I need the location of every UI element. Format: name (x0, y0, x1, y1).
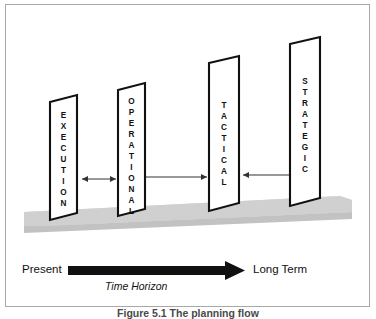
panel-operational[interactable]: O P E R A T I O N A L (118, 83, 145, 216)
panel-execution-letter-4: U (60, 155, 66, 164)
panel-strategic-letter-0: S (302, 77, 308, 86)
panel-tactical-letter-5: C (221, 156, 227, 165)
planning-flow-diagram: E X E C U T I O N O P E R A T I O N A L (0, 0, 376, 319)
figure-container: E X E C U T I O N O P E R A T I O N A L (0, 0, 376, 319)
panel-tactical-letter-4: I (223, 145, 225, 154)
panel-strategic-letter-5: E (302, 132, 308, 141)
panel-tactical-letter-2: C (221, 123, 227, 132)
panel-operational-letter-7: O (128, 174, 135, 183)
axis-start-label: Present (22, 263, 62, 275)
time-horizon-arrow-icon (68, 261, 245, 280)
panel-strategic-letter-2: R (302, 99, 308, 108)
panel-operational-letter-5: T (129, 152, 134, 161)
connector-arrows (82, 175, 297, 179)
panel-strategic-letter-4: T (302, 121, 307, 130)
panel-execution[interactable]: E X E C U T I O N (50, 95, 77, 220)
panel-tactical[interactable]: T A C T I C A L (209, 56, 239, 211)
panel-strategic-letter-3: A (302, 110, 308, 119)
panel-operational-letter-1: P (129, 108, 135, 117)
panel-execution-letter-1: X (61, 122, 67, 131)
panel-execution-letter-6: I (62, 177, 64, 186)
panel-execution-letter-8: N (60, 199, 66, 208)
panel-tactical-letter-6: A (221, 167, 227, 176)
panel-strategic-letter-6: G (302, 143, 308, 152)
panel-operational-letter-8: N (128, 185, 134, 194)
panel-strategic-letter-1: T (302, 88, 307, 97)
panel-execution-letter-3: C (60, 144, 66, 153)
axis-title-time-horizon: Time Horizon (105, 280, 167, 292)
panel-tactical-letter-0: T (221, 101, 226, 110)
panel-operational-letter-4: A (128, 141, 134, 150)
time-horizon-axis: Present Long Term Time Horizon (22, 261, 307, 292)
panel-operational-letter-9: A (128, 196, 134, 205)
panel-operational-letter-0: O (128, 97, 135, 106)
panel-operational-letter-2: E (129, 119, 135, 128)
panel-execution-letter-7: O (60, 188, 67, 197)
panel-strategic-letter-8: C (302, 165, 308, 174)
axis-end-label: Long Term (253, 263, 307, 275)
panel-operational-letter-6: I (130, 163, 132, 172)
panel-strategic[interactable]: S T R A T E G I C (290, 37, 320, 206)
panel-execution-letter-5: T (61, 166, 66, 175)
panel-execution-letter-2: E (61, 133, 67, 142)
panel-execution-letter-0: E (61, 111, 67, 120)
panel-operational-letter-3: R (128, 130, 134, 139)
panel-operational-letter-10: L (129, 207, 134, 216)
figure-caption: Figure 5.1 The planning flow (117, 307, 260, 319)
panel-tactical-letter-7: L (221, 178, 226, 187)
panel-tactical-letter-3: T (221, 134, 226, 143)
panel-tactical-letter-1: A (221, 112, 227, 121)
panel-strategic-letter-7: I (304, 154, 306, 163)
